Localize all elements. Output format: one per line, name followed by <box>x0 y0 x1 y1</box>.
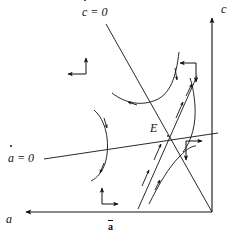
saddle-path-arrowheads <box>142 84 192 186</box>
nullcline-adot-label: a = 0 <box>8 152 34 164</box>
a-axis-label: a <box>6 213 12 225</box>
direction-arrows-upper-left <box>68 58 86 74</box>
macron-accent-icon <box>108 220 112 221</box>
phase-diagram-canvas <box>0 0 236 244</box>
equilibrium-marker <box>167 135 169 137</box>
phase-diagram-figure: c = 0 a = 0 c a a E <box>0 0 236 244</box>
cdot-equals-zero: = 0 <box>87 5 107 19</box>
c-dot-variable: c <box>82 6 87 18</box>
nullcline-cdot-label: c = 0 <box>82 6 107 18</box>
direction-arrows-lower-left <box>102 188 118 204</box>
a-bar-label: a <box>108 222 113 232</box>
direction-arrows-upper-right <box>180 63 196 82</box>
trajectory-upper-u-curve <box>112 52 179 103</box>
a-bar-variable: a <box>108 222 113 232</box>
nullcline-adot-zero <box>44 133 218 159</box>
c-axis-label: c <box>221 3 226 15</box>
trajectory-left-arc-arrows <box>100 118 107 173</box>
nullcline-cdot-zero <box>106 24 212 212</box>
adot-equals-zero: = 0 <box>14 151 34 165</box>
a-dot-variable: a <box>8 152 14 164</box>
dot-accent-icon <box>10 145 12 147</box>
equilibrium-label: E <box>150 122 157 134</box>
